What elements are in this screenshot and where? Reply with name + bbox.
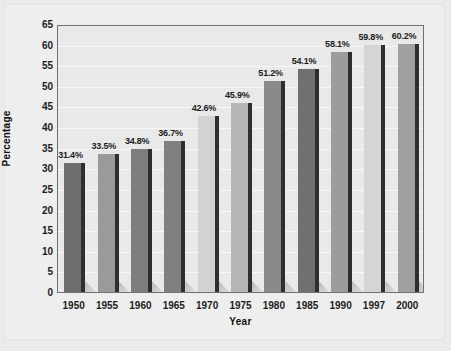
x-axis-tick-labels: 1950195519601965197019751980198519901997… (0, 0, 451, 351)
chart-screenshot: Percentage 05101520253035404550556065 31… (0, 0, 451, 351)
x-axis-tick-label: 2000 (387, 300, 427, 311)
x-axis-title: Year (57, 316, 424, 327)
bar-chart-figure: Percentage 05101520253035404550556065 31… (0, 0, 451, 351)
